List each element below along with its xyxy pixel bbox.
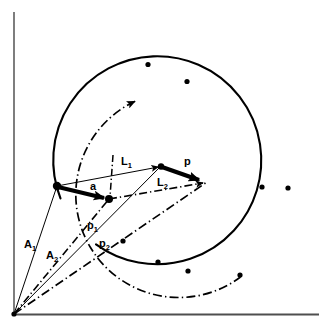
vector-p (162, 167, 199, 180)
vector-diagram-figure: a p L1 L2 A1 A2 p1 p2 (0, 0, 328, 333)
solid-circle-marker (185, 268, 190, 273)
label-line-L2: L2 (157, 176, 168, 191)
vertex-left-node (53, 182, 61, 190)
vertex-upper-node (158, 163, 164, 169)
thick-vectors-group (58, 167, 199, 198)
vertex-mid-node (105, 195, 113, 203)
vector-a (58, 187, 104, 198)
label-vector-a: a (90, 180, 97, 192)
label-vector-p: p (184, 155, 191, 167)
dashdot-circle-marker (155, 259, 160, 264)
label-line-L1: L1 (121, 155, 132, 170)
dashdot-circle-marker (237, 272, 242, 277)
line-L2 (109, 183, 203, 199)
figure-canvas: a p L1 L2 A1 A2 p1 p2 (0, 0, 328, 333)
vertex-origin-node (11, 311, 16, 316)
dashdot-circle-arc (76, 101, 241, 297)
dashdot-circle-marker (184, 79, 189, 84)
label-line-p1: p1 (87, 219, 98, 234)
solid-circle-arc (53, 56, 261, 264)
solid-circle-marker (145, 62, 150, 67)
dashdot-circle-marker (285, 185, 290, 190)
line-p1 (14, 166, 161, 314)
line-A2 (14, 199, 109, 314)
label-line-A2: A2 (46, 249, 58, 264)
label-line-A1: A1 (24, 238, 36, 253)
solid-circle-marker (120, 238, 125, 243)
solid-circle-marker (259, 184, 264, 189)
